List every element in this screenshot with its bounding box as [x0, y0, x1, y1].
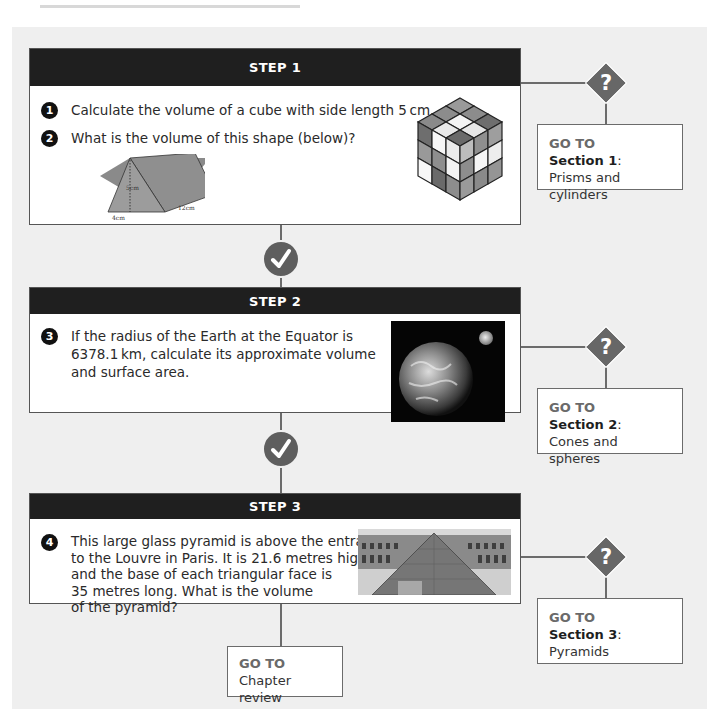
question-number-1: 1: [41, 102, 58, 119]
question-2: 2 What is the volume of this shape (belo…: [41, 129, 355, 147]
goto-section-2[interactable]: GO TO Section 2: Cones and spheres: [537, 388, 683, 454]
connector-step2-diamond: [521, 346, 591, 348]
question-1: 1 Calculate the volume of a cube with si…: [41, 101, 434, 119]
goto-section-name: Section 3:: [549, 626, 672, 643]
cropped-text-strip: [0, 0, 720, 10]
louvre-pyramid-image: [358, 529, 511, 595]
connector-diamond1-goto: [605, 103, 607, 125]
goto-section-title: Prisms and cylinders: [549, 169, 672, 203]
triangular-prism-figure: 5cm 4cm 12cm: [75, 154, 205, 224]
earth-moon-image: [391, 321, 505, 422]
goto-chapter-review-title: Chapter review: [239, 672, 332, 706]
step-1-header: STEP 1: [30, 49, 520, 86]
question-2-text: What is the volume of this shape (below)…: [71, 129, 355, 147]
goto-chapter-review[interactable]: GO TO Chapter review: [227, 646, 343, 697]
question-4: 4 This large glass pyramid is above the …: [41, 533, 388, 616]
step-3-header: STEP 3: [30, 494, 520, 519]
goto-section-title: Pyramids: [549, 643, 672, 660]
question-1-text: Calculate the volume of a cube with side…: [71, 101, 434, 119]
step-1-box: STEP 1 1 Calculate the volume of a cube …: [29, 48, 521, 225]
question-number-2: 2: [41, 130, 58, 147]
connector-check2-step3: [280, 466, 282, 494]
check-icon: [262, 430, 300, 468]
step-2-header: STEP 2: [30, 288, 520, 314]
goto-label: GO TO: [549, 609, 672, 626]
goto-section-name: Section 2:: [549, 416, 672, 433]
question-3: 3 If the radius of the Earth at the Equa…: [41, 327, 376, 381]
goto-section-1[interactable]: GO TO Section 1: Prisms and cylinders: [537, 124, 683, 190]
question-4-text: This large glass pyramid is above the en…: [71, 533, 388, 616]
goto-section-title: Cones and spheres: [549, 433, 672, 467]
rubiks-cube-figure: [410, 94, 510, 209]
prism-height-label: 5cm: [126, 184, 139, 191]
goto-label: GO TO: [549, 135, 672, 152]
prism-base-label: 4cm: [112, 214, 125, 221]
connector-diamond3-goto: [605, 577, 607, 599]
goto-label: GO TO: [239, 655, 332, 672]
connector-step3-diamond: [521, 556, 591, 558]
question-diamond-icon: ?: [586, 327, 626, 367]
prism-length-label: 12cm: [178, 204, 195, 211]
goto-section-3[interactable]: GO TO Section 3: Pyramids: [537, 598, 683, 664]
check-icon: [262, 240, 300, 278]
goto-section-name: Section 1:: [549, 152, 672, 169]
connector-diamond2-goto: [605, 367, 607, 389]
question-number-3: 3: [41, 328, 58, 345]
goto-label: GO TO: [549, 399, 672, 416]
connector-step2-check2: [280, 412, 282, 432]
connector-step1-diamond: [521, 82, 591, 84]
question-diamond-icon: ?: [586, 63, 626, 103]
question-number-4: 4: [41, 534, 58, 551]
question-diamond-icon: ?: [586, 537, 626, 577]
question-3-text: If the radius of the Earth at the Equato…: [71, 327, 376, 381]
